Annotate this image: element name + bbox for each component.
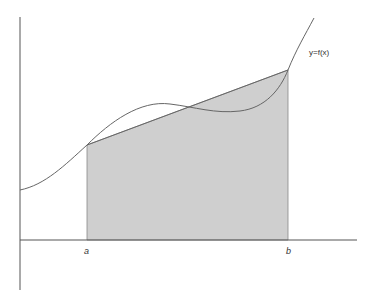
- curve-label: y=f(x): [309, 48, 330, 57]
- x-label-a: a: [84, 246, 89, 256]
- x-label-b: b: [286, 246, 291, 256]
- trapezoid-rule-diagram: y=f(x) a b: [0, 0, 369, 303]
- diagram-svg: y=f(x) a b: [0, 0, 369, 303]
- trapezoid-area: [87, 70, 288, 240]
